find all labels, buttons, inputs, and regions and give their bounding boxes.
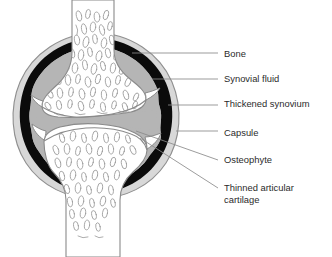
label-osteophyte: Osteophyte <box>224 154 272 165</box>
label-bone: Bone <box>224 48 246 59</box>
osteoarthritic-joint-diagram: Bone Synovial fluid Thickened synovium C… <box>0 0 332 257</box>
label-synovial-fluid: Synovial fluid <box>224 73 279 84</box>
label-thinned-articular-cartilage-line2: cartilage <box>224 194 259 205</box>
label-capsule: Capsule <box>224 127 258 138</box>
label-thinned-articular-cartilage-line1: Thinned articular <box>224 182 294 193</box>
label-thickened-synovium: Thickened synovium <box>224 98 310 109</box>
